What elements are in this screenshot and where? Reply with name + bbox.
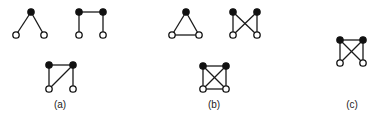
- white-node: [13, 32, 19, 38]
- black-node: [70, 62, 76, 68]
- black-node: [360, 37, 366, 43]
- edge: [186, 12, 199, 35]
- graph-c1: [337, 37, 366, 66]
- white-node: [41, 32, 47, 38]
- caption-a: (a): [54, 99, 66, 110]
- black-node: [183, 9, 189, 15]
- edge: [172, 12, 186, 35]
- edge: [49, 65, 73, 89]
- white-node: [100, 32, 106, 38]
- graph-b1: [169, 9, 202, 38]
- graph-a1: [13, 9, 47, 38]
- white-node: [337, 60, 343, 66]
- black-node: [223, 63, 229, 69]
- edge: [31, 12, 44, 35]
- white-node: [46, 86, 52, 92]
- graph-diagram: (a) (b) (c): [0, 0, 380, 122]
- black-node: [28, 9, 34, 15]
- black-node: [76, 9, 82, 15]
- edge: [16, 12, 31, 35]
- black-node: [230, 9, 236, 15]
- white-node: [76, 32, 82, 38]
- black-node: [200, 63, 206, 69]
- caption-b: (b): [208, 99, 220, 110]
- black-node: [337, 37, 343, 43]
- white-node: [169, 32, 175, 38]
- graph-b3: [200, 63, 229, 92]
- black-node: [46, 62, 52, 68]
- white-node: [196, 32, 202, 38]
- white-node: [200, 86, 206, 92]
- white-node: [254, 32, 260, 38]
- white-node: [360, 60, 366, 66]
- graph-a3: [46, 62, 76, 92]
- black-node: [100, 9, 106, 15]
- white-node: [223, 86, 229, 92]
- white-node: [230, 32, 236, 38]
- graph-b2: [230, 9, 260, 38]
- caption-c: (c): [346, 99, 358, 110]
- black-node: [254, 9, 260, 15]
- graph-a2: [76, 9, 106, 38]
- white-node: [70, 86, 76, 92]
